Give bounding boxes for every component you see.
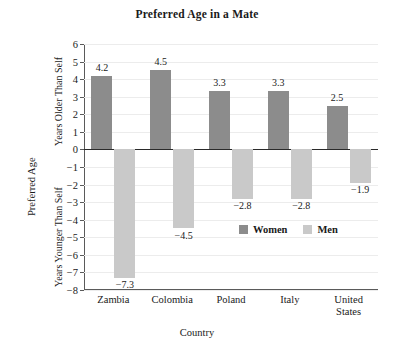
bar-women-1 bbox=[150, 70, 171, 149]
tick-mark bbox=[80, 255, 84, 256]
bar-men-3 bbox=[291, 149, 312, 198]
bar-value-label: 3.3 bbox=[213, 77, 226, 88]
y-axis-title: Preferred Age bbox=[26, 157, 37, 216]
legend-swatch-women-icon bbox=[239, 225, 248, 234]
y-tick-label: 1 bbox=[73, 126, 78, 137]
y-tick-label: −7 bbox=[67, 267, 78, 278]
tick-mark bbox=[80, 114, 84, 115]
category-label-0: Zambia bbox=[97, 294, 129, 306]
bar-value-label: −7.3 bbox=[116, 279, 134, 290]
bar-value-label: −4.5 bbox=[175, 230, 193, 241]
y-tick-label: 2 bbox=[73, 109, 78, 120]
y-tick-label: 5 bbox=[73, 56, 78, 67]
tick-mark bbox=[80, 220, 84, 221]
bar-value-label: −2.8 bbox=[292, 200, 310, 211]
legend-item-men[interactable]: Men bbox=[303, 224, 337, 235]
gridline bbox=[84, 44, 378, 45]
x-axis-title: Country bbox=[0, 327, 394, 338]
tick-mark bbox=[80, 79, 84, 80]
tick-mark bbox=[80, 202, 84, 203]
y-tick-label: 3 bbox=[73, 91, 78, 102]
tick-mark bbox=[80, 185, 84, 186]
tick-mark bbox=[80, 167, 84, 168]
y-tick-label: 0 bbox=[73, 144, 78, 155]
y-tick-label: −6 bbox=[67, 249, 78, 260]
y-tick-label: 6 bbox=[73, 39, 78, 50]
category-label-4: United States bbox=[334, 294, 363, 318]
chart-title: Preferred Age in a Mate bbox=[0, 8, 394, 20]
tick-mark bbox=[80, 237, 84, 238]
y-tick-label: −2 bbox=[67, 179, 78, 190]
y-tick-label: −1 bbox=[67, 162, 78, 173]
bar-value-label: 2.5 bbox=[331, 92, 344, 103]
gridline bbox=[84, 79, 378, 80]
legend-swatch-men-icon bbox=[303, 225, 312, 234]
bar-men-1 bbox=[173, 149, 194, 228]
bar-men-0 bbox=[114, 149, 135, 277]
bar-men-2 bbox=[232, 149, 253, 198]
plot-area: 6543210−1−2−3−4−5−6−7−8 4.24.53.33.32.5−… bbox=[84, 44, 378, 290]
y-tick-label: −4 bbox=[67, 214, 78, 225]
bar-value-label: 4.2 bbox=[96, 62, 109, 73]
bar-women-2 bbox=[209, 91, 230, 149]
bar-value-label: 3.3 bbox=[272, 77, 285, 88]
tick-mark bbox=[80, 97, 84, 98]
legend-label: Women bbox=[253, 224, 287, 235]
tick-mark bbox=[80, 290, 84, 291]
y-tick-label: −3 bbox=[67, 197, 78, 208]
tick-mark bbox=[80, 272, 84, 273]
category-label-1: Colombia bbox=[151, 294, 192, 306]
bar-women-4 bbox=[327, 106, 348, 150]
legend-item-women[interactable]: Women bbox=[239, 224, 287, 235]
tick-mark bbox=[80, 132, 84, 133]
bar-women-3 bbox=[268, 91, 289, 149]
category-label-3: Italy bbox=[280, 294, 299, 306]
chart-legend: WomenMen bbox=[239, 224, 338, 235]
y-tick-label: −5 bbox=[67, 232, 78, 243]
chart-figure: Preferred Age in a Mate Preferred Age Ye… bbox=[0, 0, 394, 354]
y-axis-upper-label: Years Older Than Self bbox=[53, 57, 64, 146]
y-axis-lower-label: Years Younger Than Self bbox=[53, 187, 64, 287]
tick-mark bbox=[80, 62, 84, 63]
bar-value-label: 4.5 bbox=[154, 56, 167, 67]
y-tick-label: −8 bbox=[67, 285, 78, 296]
bar-value-label: −2.8 bbox=[233, 200, 251, 211]
bar-women-0 bbox=[91, 76, 112, 150]
tick-mark bbox=[80, 149, 84, 150]
bar-value-label: −1.9 bbox=[351, 184, 369, 195]
gridline bbox=[84, 62, 378, 63]
y-tick-label: 4 bbox=[73, 74, 78, 85]
tick-mark bbox=[80, 44, 84, 45]
gridline bbox=[84, 290, 378, 291]
legend-label: Men bbox=[317, 224, 337, 235]
bar-men-4 bbox=[350, 149, 371, 182]
category-label-2: Poland bbox=[216, 294, 245, 306]
